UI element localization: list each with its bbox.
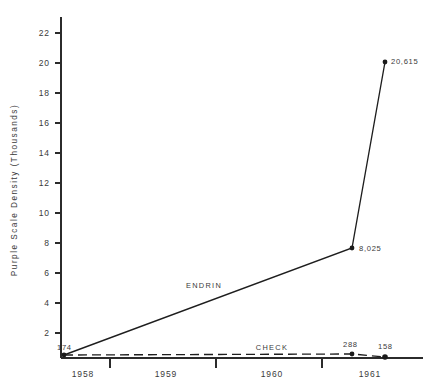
x-tick-1959: 1959 (155, 369, 178, 379)
marker-20615 (383, 60, 388, 65)
x-axis-tick-labels: 1958 1959 1960 1961 (72, 369, 382, 379)
y-tick-4: 4 (44, 298, 50, 308)
y-axis-ticks (55, 33, 61, 333)
data-point-labels: 174 8,025 20,615 288 158 (57, 57, 418, 352)
marker-8025 (350, 246, 355, 251)
marker-288 (350, 352, 355, 357)
chart-plot-area: 22 20 18 16 14 12 10 8 6 4 2 Purple Scal… (0, 0, 423, 390)
marker-158 (382, 354, 388, 360)
x-tick-1960: 1960 (261, 369, 284, 379)
chart-container: 22 20 18 16 14 12 10 8 6 4 2 Purple Scal… (0, 0, 423, 390)
x-axis-ticks (110, 358, 322, 368)
y-tick-8: 8 (44, 238, 50, 248)
label-288: 288 (343, 340, 358, 349)
y-tick-6: 6 (44, 268, 50, 278)
label-8025: 8,025 (359, 244, 382, 253)
label-20615: 20,615 (391, 57, 418, 66)
y-tick-16: 16 (39, 118, 50, 128)
series-line-check (64, 354, 385, 357)
series-line-endrin (64, 62, 385, 355)
y-tick-12: 12 (39, 178, 50, 188)
x-tick-1958: 1958 (72, 369, 95, 379)
series-label-endrin: ENDRIN (186, 281, 222, 290)
y-tick-10: 10 (39, 208, 50, 218)
y-tick-20: 20 (39, 58, 50, 68)
data-point-markers (62, 60, 388, 360)
y-axis-title: Purple Scale Density (Thousands) (10, 104, 19, 276)
y-tick-14: 14 (39, 148, 50, 158)
series-label-check: CHECK (256, 343, 288, 352)
y-tick-2: 2 (44, 328, 50, 338)
marker-174 (62, 353, 67, 358)
x-tick-1961: 1961 (359, 369, 382, 379)
y-tick-22: 22 (39, 28, 50, 38)
label-174: 174 (57, 343, 72, 352)
y-tick-18: 18 (39, 88, 50, 98)
label-158: 158 (378, 342, 393, 351)
y-axis-tick-labels: 22 20 18 16 14 12 10 8 6 4 2 (39, 28, 50, 338)
